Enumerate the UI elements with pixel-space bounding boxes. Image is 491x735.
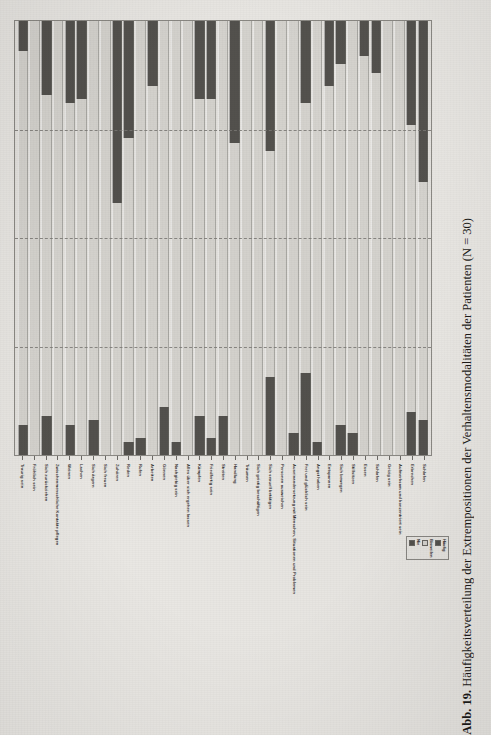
bar-segment-nie [206, 438, 217, 455]
category-label-text: Schlafen [422, 464, 426, 482]
category-label-text: Sich sexuell betätigen [268, 464, 272, 509]
category-label-text: Erbrechen [410, 464, 414, 485]
category-label: Auseinandersetzung mit Menschen, Situati… [288, 462, 300, 637]
stacked-bar [359, 21, 370, 455]
legend-label-haeufig: Häufig [442, 539, 446, 551]
axis-tick [288, 456, 300, 461]
category-label: Entspannen [324, 462, 336, 637]
stacked-bar [312, 21, 323, 455]
category-label: Sich bewegen [335, 462, 347, 637]
bar-segment-nie [265, 377, 276, 455]
category-label: Personen ausweichen [276, 462, 288, 637]
category-label-text: Sich freuen [103, 464, 107, 487]
bar-segment-nie [218, 416, 229, 455]
axis-tick [87, 456, 99, 461]
bar-segment-haeufig [123, 21, 134, 138]
bar-segment-haeufig [65, 21, 76, 103]
figure-area: Traurig seinFröhlich seinSich zurückzieh… [0, 0, 440, 640]
bar-segment-bisweilen [53, 21, 64, 455]
category-label-text: Lachen [79, 464, 83, 479]
category-label: Streiten [217, 462, 229, 637]
axis-tick [134, 456, 146, 461]
legend-swatch-icon-haeufig [435, 540, 441, 546]
stacked-bar [53, 21, 64, 455]
axis-tick [324, 456, 336, 461]
axis-tick [371, 456, 383, 461]
stacked-bar [335, 21, 346, 455]
category-label: Zwischenmenschliche Kontakte pflegen [51, 462, 63, 637]
category-label: Angst haben [312, 462, 324, 637]
category-label-text: Friedfertig sein [209, 464, 213, 495]
category-label-text: Sich ärgern [91, 464, 95, 488]
bar-segment-bisweilen [288, 21, 299, 433]
axis-tick [347, 456, 359, 461]
axis-tick [28, 456, 40, 461]
category-label-text: Alles über sich ergehen lassen [185, 464, 189, 527]
axis-tick [359, 456, 371, 461]
legend-item-nie: Nie [409, 539, 420, 557]
category-label: Sich zurückziehen [40, 462, 52, 637]
stacked-bar [100, 21, 111, 455]
category-label-text: Frei und glücklich sein [304, 464, 308, 511]
bar-segment-bisweilen [359, 56, 370, 455]
axis-tick [16, 456, 28, 461]
bar-segment-nie [171, 442, 182, 455]
axis-tick [406, 456, 418, 461]
bar-segment-bisweilen [18, 51, 29, 424]
category-label: Zuhören [111, 462, 123, 637]
category-label: Traurig sein [16, 462, 28, 637]
bar-segment-nie [312, 442, 323, 455]
axis-tick [40, 456, 52, 461]
axis-tick [276, 456, 288, 461]
category-label-text: Sich geistig beschäftigen [256, 464, 260, 516]
legend-label-nie: Nie [416, 539, 420, 545]
category-label: Sich sexuell betätigen [264, 462, 276, 637]
stacked-bar [218, 21, 229, 455]
bar-segment-haeufig [18, 21, 29, 51]
axis-tick [170, 456, 182, 461]
bar-segment-bisweilen [265, 151, 276, 377]
category-label: Alles über sich ergehen lassen [182, 462, 194, 637]
axis-tick [335, 456, 347, 461]
bar-segment-bisweilen [253, 21, 264, 455]
axis-tick [182, 456, 194, 461]
stacked-bar [171, 21, 182, 455]
stacked-bar [371, 21, 382, 455]
axis-tick [99, 456, 111, 461]
bar-segment-bisweilen [206, 99, 217, 438]
axis-tick [111, 456, 123, 461]
bar-segment-nie [88, 420, 99, 455]
category-label: Friedfertig sein [205, 462, 217, 637]
stacked-bar [88, 21, 99, 455]
category-label: Sich freuen [99, 462, 111, 637]
bar-segment-nie [288, 433, 299, 455]
axis-tick [75, 456, 87, 461]
bar-segment-nie [335, 425, 346, 455]
legend-label-bisweilen: Bisweilen [429, 539, 433, 557]
category-label: Sich ärgern [87, 462, 99, 637]
category-label-text: Nachgiebig sein [174, 464, 178, 497]
category-label-text: Rufen [138, 464, 142, 476]
bar-segment-nie [159, 407, 170, 455]
category-label: Reden [122, 462, 134, 637]
bar-segment-bisweilen [171, 21, 182, 442]
bar-segment-nie [65, 425, 76, 455]
axis-tick-row [14, 456, 432, 461]
axis-tick [229, 456, 241, 461]
figure-caption-number: Abb. 19. [460, 690, 474, 735]
stacked-bar [41, 21, 52, 455]
bar-segment-bisweilen [335, 64, 346, 424]
category-label-text: Zuhören [114, 464, 118, 481]
category-axis-labels: Traurig seinFröhlich seinSich zurückzieh… [14, 462, 432, 637]
category-label-text: Sich zurückziehen [44, 464, 48, 501]
bar-segment-haeufig [41, 21, 52, 95]
stacked-bar-series [15, 21, 431, 455]
bar-segment-bisweilen [394, 21, 405, 455]
category-label: Aufmerksam und konzentriert sein [395, 462, 407, 637]
bar-segment-bisweilen [418, 182, 429, 421]
category-label: Schlafen [371, 462, 383, 637]
stacked-bar [300, 21, 311, 455]
bar-segment-bisweilen [29, 21, 40, 455]
stacked-bar [206, 21, 217, 455]
bar-segment-nie [300, 373, 311, 455]
